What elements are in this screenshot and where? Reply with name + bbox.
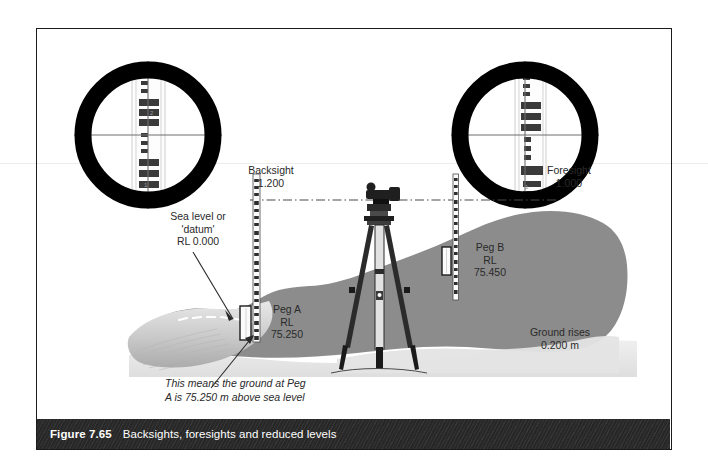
sea-level-line2: 'datum' — [137, 223, 259, 236]
figure-frame: 4 2 1 — [36, 28, 672, 450]
sea-level-annotation: Sea level or 'datum' RL 0.000 — [137, 210, 259, 248]
backsight-label: Backsight — [221, 164, 321, 177]
figure-caption-bar: Figure 7.65 Backsights, foresights and r… — [37, 419, 670, 449]
peg-b — [442, 247, 451, 275]
figure-artwork: 4 2 1 — [37, 29, 670, 417]
sea-level-line3: RL 0.000 — [137, 235, 259, 248]
foresight-label-group: Foresight 1.000 — [519, 164, 619, 189]
sea-level-line1: Sea level or — [137, 210, 259, 223]
peg-b-line2: RL — [452, 254, 528, 267]
foresight-label: Foresight — [519, 164, 619, 177]
note-line2: A is 75.250 m above sea level — [165, 391, 375, 405]
peg-b-line1: Peg B — [452, 241, 528, 254]
foresight-reading: 1.000 — [519, 177, 619, 190]
peg-a-line1: Peg A — [249, 303, 325, 316]
figure-number: Figure 7.65 — [50, 428, 112, 440]
ground-rise-annotation: Ground rises 0.200 m — [505, 326, 615, 351]
note-line1: This means the ground at Peg — [165, 377, 375, 391]
foresight-staff — [453, 174, 459, 300]
peg-a-line2: RL — [249, 316, 325, 329]
backsight-label-group: Backsight 1.200 — [221, 164, 321, 189]
surveying-diagram-svg: 4 2 1 — [37, 29, 670, 417]
ground-rise-line1: Ground rises — [505, 326, 615, 339]
backsight-telescope-view: 4 2 1 — [74, 61, 222, 209]
level-telescope — [366, 183, 400, 205]
peg-a-annotation: Peg A RL 75.250 — [249, 303, 325, 341]
figure-caption: Backsights, foresights and reduced level… — [123, 428, 337, 440]
ground-rise-line2: 0.200 m — [505, 339, 615, 352]
page-canvas: 4 2 1 — [0, 0, 708, 466]
note-annotation: This means the ground at Peg A is 75.250… — [165, 377, 375, 404]
backsight-reading: 1.200 — [221, 177, 321, 190]
tripod-head — [364, 204, 394, 225]
peg-b-line3: 75.450 — [452, 266, 528, 279]
peg-a-line3: 75.250 — [249, 328, 325, 341]
peg-b-annotation: Peg B RL 75.450 — [452, 241, 528, 279]
